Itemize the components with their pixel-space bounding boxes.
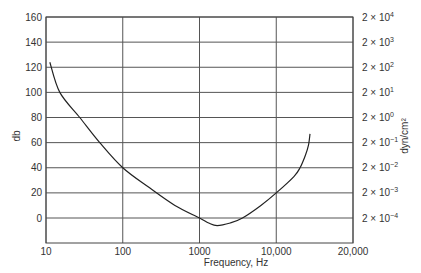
y-tick-label: 120: [25, 62, 42, 73]
grid: [46, 17, 353, 243]
y2-tick-label: 2 × 102: [362, 61, 394, 73]
series-line-threshold: [50, 62, 310, 225]
y2-tick-label: 2 × 101: [362, 86, 394, 98]
x-tick-label: 1000: [188, 246, 211, 257]
y2-tick-label: 2 × 10−4: [362, 212, 398, 224]
y2-tick-label: 2 × 10−2: [362, 161, 398, 173]
x-axis-ticks: 10100100010,00020,000: [40, 246, 368, 257]
x-tick-label: 10: [40, 246, 52, 257]
y2-tick-label: 2 × 100: [362, 111, 394, 123]
y-tick-label: 60: [31, 137, 43, 148]
x-axis-label: Frequency, Hz: [204, 257, 268, 268]
y-tick-label: 80: [31, 112, 43, 123]
y-axis-ticks: 020406080100120140160: [25, 12, 42, 224]
y2-tick-label: 2 × 10−3: [362, 186, 398, 198]
x-tick-label: 20,000: [338, 246, 369, 257]
chart: 020406080100120140160 2 × 10−42 × 10−32 …: [0, 0, 421, 273]
y2-tick-label: 2 × 10−1: [362, 136, 398, 148]
y-tick-label: 40: [31, 162, 43, 173]
x-tick-label: 100: [114, 246, 131, 257]
y2-axis-ticks: 2 × 10−42 × 10−32 × 10−22 × 10−12 × 1002…: [362, 11, 398, 224]
y-tick-label: 0: [36, 213, 42, 224]
y-tick-label: 100: [25, 87, 42, 98]
x-tick-label: 10,000: [261, 246, 292, 257]
y2-tick-label: 2 × 104: [362, 11, 394, 23]
y2-axis-label: dyn/cm²: [399, 118, 410, 154]
y-tick-label: 160: [25, 12, 42, 23]
y-axis-label: db: [11, 130, 22, 142]
y-tick-label: 140: [25, 37, 42, 48]
y2-tick-label: 2 × 103: [362, 36, 394, 48]
y-tick-label: 20: [31, 187, 43, 198]
